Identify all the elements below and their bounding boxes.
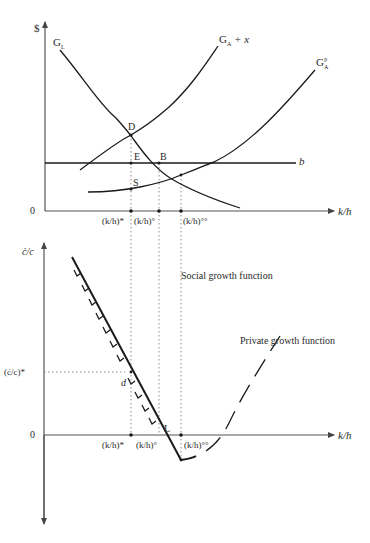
top-panel: $ k/h 0 b GL GA + x GAp D E B S bbox=[30, 22, 352, 460]
top-tick-label-kh-circle: (k/h)° bbox=[134, 216, 155, 226]
point-d-label: D bbox=[128, 121, 135, 132]
private-growth-function bbox=[206, 336, 280, 451]
economic-growth-diagram: $ k/h 0 b GL GA + x GAp D E B S bbox=[0, 0, 370, 543]
g-a-p-curve bbox=[88, 70, 315, 192]
b-line-label: b bbox=[299, 155, 305, 167]
bottom-tick-kh-double-circle bbox=[179, 433, 183, 437]
top-tick-label-kh-star: (k/h)* bbox=[102, 216, 124, 226]
top-x-axis-label: k/h bbox=[338, 205, 352, 217]
svg-text:GL: GL bbox=[53, 36, 65, 50]
g-l-label: GL bbox=[53, 36, 65, 50]
point-b-label: B bbox=[160, 151, 167, 162]
bottom-tick-label-kh-star: (k/h)* bbox=[102, 440, 124, 450]
point-l-label: L bbox=[164, 423, 170, 434]
private-growth-hook bbox=[181, 456, 196, 460]
top-tick-kh-circle bbox=[157, 209, 161, 213]
cc-star-tick-label: (ċ/c)* bbox=[4, 367, 25, 377]
point-e-label: E bbox=[134, 151, 140, 162]
g-a-plus-x-curve bbox=[80, 46, 218, 170]
bottom-panel: ċ/c k/h 0 (ċ/c)* d L (k/h)* (k/h)° (k/h)… bbox=[4, 243, 352, 524]
g-a-plus-x-label: GA + x bbox=[219, 33, 249, 47]
top-tick-label-kh-double-circle: (k/h)°° bbox=[183, 216, 208, 226]
bottom-min-marker bbox=[180, 459, 183, 462]
private-growth-annotation: Private growth function bbox=[240, 335, 335, 346]
point-e-marker bbox=[129, 161, 132, 164]
bottom-tick-label-kh-circle: (k/h)° bbox=[136, 440, 157, 450]
point-d-lower-marker bbox=[130, 371, 133, 374]
svg-text:GAp: GAp bbox=[316, 56, 329, 70]
top-tick-kh-star bbox=[129, 209, 133, 213]
point-s-label: S bbox=[133, 177, 139, 188]
top-y-axis-label: $ bbox=[34, 22, 40, 34]
social-growth-annotation: Social growth function bbox=[181, 270, 273, 281]
bottom-y-axis-label: ċ/c bbox=[22, 246, 34, 257]
svg-text:GA + x: GA + x bbox=[219, 33, 249, 47]
top-origin-label: 0 bbox=[30, 205, 35, 216]
g-a-p-label: GAp bbox=[316, 56, 329, 70]
bottom-tick-kh-star bbox=[129, 433, 133, 437]
bottom-origin-label: 0 bbox=[30, 429, 35, 440]
bottom-x-axis-label: k/h bbox=[338, 429, 352, 441]
bottom-tick-label-kh-double-circle: (k/h)°° bbox=[184, 440, 209, 450]
top-tick-kh-double-circle bbox=[179, 209, 183, 213]
point-d-lower-label: d bbox=[121, 377, 127, 388]
point-gl-gap-marker bbox=[180, 174, 183, 177]
point-d-marker bbox=[129, 133, 132, 136]
